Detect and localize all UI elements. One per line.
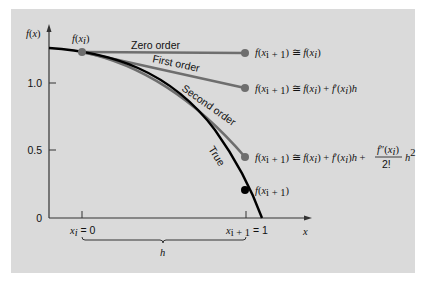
first-order-label: First order <box>152 52 202 74</box>
x-axis-label: x <box>302 226 308 237</box>
second-order-equation: f(xi + 1) ≅ f(xi) + f′(xi)h + <box>255 152 366 165</box>
first-order-point <box>241 84 249 92</box>
zero-order-label: Zero order <box>131 39 181 51</box>
y-axis-arrow-icon <box>47 24 52 32</box>
x-tick-xi1: xi + 1 = 1 <box>225 224 268 238</box>
y-tick-0.5: 0.5 <box>27 144 42 156</box>
true-label: True <box>206 144 227 168</box>
true-value-label: f(xi + 1) <box>255 185 289 198</box>
true-point <box>241 186 249 194</box>
h-brace <box>82 237 246 243</box>
y-tick-1: 1.0 <box>27 77 42 89</box>
taylor-series-chart: 1.0 0.5 0 f(x) x xi = 0 xi + 1 = 1 h Zer… <box>0 0 427 287</box>
zero-order-point <box>241 49 249 57</box>
y-axis-label: f(x) <box>26 28 41 40</box>
second-derivative-numerator: f″(xi) <box>377 144 399 157</box>
h-label: h <box>160 247 165 258</box>
h-squared: h2 <box>405 147 416 163</box>
y-tick-0: 0 <box>36 212 42 224</box>
x-tick-xi: xi = 0 <box>69 224 96 238</box>
factorial-denominator: 2! <box>382 158 391 170</box>
start-point <box>78 48 86 56</box>
first-order-equation: f(xi + 1) ≅ f(xi) + f′(xi)h <box>255 83 357 96</box>
zero-order-line <box>82 52 245 53</box>
zero-order-equation: f(xi + 1) ≅ f(xi) <box>255 47 321 60</box>
x-axis-arrow-icon <box>304 216 312 221</box>
true-curve <box>49 48 262 218</box>
second-order-point <box>241 153 249 161</box>
f-xi-label: f(xi) <box>72 33 90 46</box>
